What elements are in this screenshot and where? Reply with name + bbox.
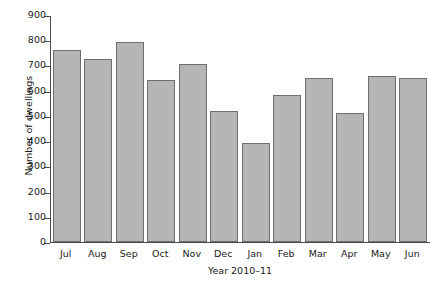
bar-dec <box>210 111 238 242</box>
bar-aug <box>84 59 112 242</box>
y-axis-tick-label: 900 <box>28 9 46 20</box>
bars-layer <box>51 16 430 242</box>
y-axis-tick-label: 0 <box>40 236 46 247</box>
y-axis-tick-label: 500 <box>28 110 46 121</box>
bar-mar <box>305 78 333 242</box>
x-axis-tick-label: Apr <box>334 248 366 259</box>
bar-chart: Number of dwellings 01002003004005006007… <box>0 0 442 287</box>
x-axis-tick-label: Aug <box>82 248 114 259</box>
x-axis-line <box>50 242 430 243</box>
y-axis-tick-label: 200 <box>28 186 46 197</box>
bar-jul <box>53 50 81 242</box>
bar-nov <box>179 64 207 242</box>
bar-jan <box>242 143 270 242</box>
x-axis-tick-label: Feb <box>271 248 303 259</box>
y-axis-tick-label: 700 <box>28 59 46 70</box>
bar-feb <box>273 95 301 242</box>
x-axis-title: Year 2010–11 <box>50 265 430 276</box>
bar-apr <box>336 113 364 242</box>
bar-sep <box>116 42 144 242</box>
x-axis-tick-labels: JulAugSepOctNovDecJanFebMarAprMayJun <box>50 248 430 262</box>
x-axis-tick-label: Jun <box>397 248 429 259</box>
x-axis-tick-label: Jan <box>239 248 271 259</box>
plot-area: 0100200300400500600700800900 <box>50 16 430 243</box>
y-axis-tick-label: 600 <box>28 85 46 96</box>
x-axis-tick-label: Nov <box>176 248 208 259</box>
x-axis-tick-label: Jul <box>50 248 82 259</box>
bar-jun <box>399 78 427 242</box>
x-axis-tick-label: Mar <box>302 248 334 259</box>
bar-oct <box>147 80 175 242</box>
y-axis-tick-label: 400 <box>28 135 46 146</box>
y-axis-tick-label: 100 <box>28 211 46 222</box>
x-axis-tick-label: Dec <box>208 248 240 259</box>
y-axis-tick-label: 800 <box>28 34 46 45</box>
y-axis-tick-label: 300 <box>28 160 46 171</box>
bar-may <box>368 76 396 242</box>
x-axis-tick-label: Sep <box>113 248 145 259</box>
x-axis-tick-label: Oct <box>145 248 177 259</box>
x-axis-tick-label: May <box>365 248 397 259</box>
